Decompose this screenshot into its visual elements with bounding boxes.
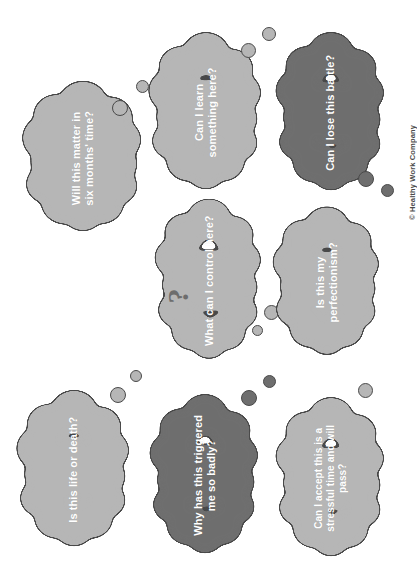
thought-bubble-dot xyxy=(358,383,373,398)
thought-cloud-can-i-learn: Can I learn something here? xyxy=(154,42,258,183)
thought-bubble-dot xyxy=(110,387,126,403)
cloud-shape xyxy=(160,207,258,354)
thought-cloud-what-can-i-control: What can I control here?? xyxy=(160,207,258,354)
thought-bubble-dot xyxy=(263,375,276,388)
thought-cloud-can-i-accept-this: Can I accept this is a stressful time an… xyxy=(281,406,381,551)
cloud-shape xyxy=(278,216,376,349)
thought-bubble-dot xyxy=(241,43,256,58)
thought-bubble-dot xyxy=(381,184,394,197)
thought-cloud-can-i-lose-this-battle: Can I lose this battle? xyxy=(281,41,381,185)
thought-bubble-dot xyxy=(262,27,276,41)
cloud-shape xyxy=(281,406,381,551)
cloud-shape xyxy=(155,403,255,548)
copyright-notice: © Healthy Work Company xyxy=(408,125,417,220)
cloud-shape xyxy=(22,400,126,540)
cloud-shape xyxy=(154,42,258,183)
thought-bubble-dot xyxy=(136,80,149,93)
thought-cloud-is-this-my-perfectionism: Is this my perfectionism? xyxy=(278,216,376,349)
question-mark-icon: ? xyxy=(162,288,192,303)
thought-cloud-why-has-this-triggered-me: Why has this triggered me so badly? xyxy=(155,403,255,548)
cloud-shape xyxy=(281,41,381,185)
thought-cloud-is-this-life-or-death: Is this life or death? xyxy=(22,400,126,540)
thought-bubble-dot xyxy=(130,370,142,382)
thought-bubble-dot xyxy=(252,325,263,336)
thought-bubble-dot xyxy=(358,171,374,187)
thought-bubble-dot xyxy=(241,390,257,406)
thought-bubble-dot xyxy=(112,100,128,116)
